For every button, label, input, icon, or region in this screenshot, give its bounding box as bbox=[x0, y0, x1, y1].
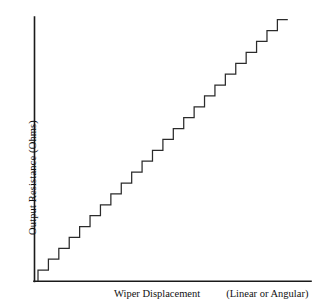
x-axis-label-suffix: (Linear or Angular) bbox=[226, 288, 308, 299]
x-axis-label: Wiper Displacement bbox=[114, 288, 200, 299]
plot-area bbox=[0, 0, 324, 308]
chart-figure: Output Resistance (Ohms) Wiper Displacem… bbox=[0, 0, 324, 308]
x-axis-label-row: Wiper Displacement (Linear or Angular) bbox=[34, 288, 318, 299]
step-curve-group bbox=[38, 20, 288, 281]
y-axis-label: Output Resistance (Ohms) bbox=[27, 35, 38, 235]
axes bbox=[34, 17, 311, 282]
step-curve bbox=[38, 20, 288, 281]
